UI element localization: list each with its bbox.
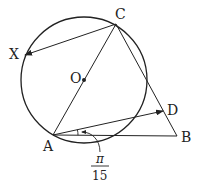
- label-c: C: [115, 6, 126, 22]
- label-d: D: [167, 102, 178, 118]
- vector-ad: [53, 111, 163, 135]
- label-b: B: [181, 129, 191, 145]
- segment-ab: [53, 135, 177, 136]
- angle-arc: [77, 130, 78, 136]
- angle-denominator: 15: [92, 169, 107, 183]
- label-x: X: [9, 46, 19, 62]
- vector-cx: [25, 24, 116, 55]
- label-o: O: [70, 70, 81, 86]
- geometry-diagram: C X O D A B π 15: [0, 0, 200, 188]
- angle-numerator: π: [95, 152, 105, 166]
- center-point-o: [82, 78, 86, 82]
- label-a: A: [42, 138, 54, 154]
